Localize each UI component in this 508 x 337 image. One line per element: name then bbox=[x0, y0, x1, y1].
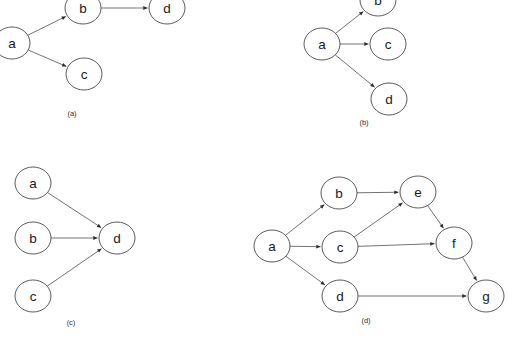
subcaption-panel-a: (a) bbox=[67, 109, 77, 118]
node-label-d: d bbox=[163, 1, 171, 16]
node-a[interactable]: a bbox=[304, 28, 340, 60]
node-a[interactable]: a bbox=[254, 230, 290, 262]
node-c[interactable]: c bbox=[322, 231, 358, 263]
edge-c-to-d bbox=[47, 249, 101, 287]
node-b[interactable]: b bbox=[321, 177, 357, 209]
subcaption-panel-b: (b) bbox=[359, 118, 369, 127]
node-c[interactable]: c bbox=[66, 58, 102, 90]
node-label-b: b bbox=[79, 1, 87, 16]
edge-a-to-c bbox=[28, 50, 66, 66]
node-label-c: c bbox=[81, 67, 88, 82]
edge-c-to-f bbox=[358, 244, 435, 247]
arrowhead-d-to-g bbox=[462, 294, 466, 298]
arrowhead-a-to-d bbox=[97, 224, 102, 228]
subcaption-panel-c: (c) bbox=[67, 318, 76, 327]
node-label-a: a bbox=[29, 176, 37, 191]
edge-a-to-b bbox=[285, 205, 324, 236]
panel-d: abcdefg(d) bbox=[254, 176, 504, 325]
arrowhead-b-to-d bbox=[143, 6, 147, 10]
node-label-c: c bbox=[30, 289, 37, 304]
node-d[interactable]: d bbox=[371, 83, 407, 115]
node-b[interactable]: b bbox=[15, 222, 51, 254]
panel-b-edges bbox=[335, 12, 374, 88]
panel-c-nodes: abcd bbox=[15, 167, 135, 312]
edge-b-to-e bbox=[357, 192, 399, 193]
node-label-g: g bbox=[482, 289, 490, 304]
panel-a: abcd(a) bbox=[0, 0, 185, 118]
arrowhead-a-to-d bbox=[320, 281, 325, 285]
panels-layer: abcd(a)abcd(b)abcd(c)abcdefg(d) bbox=[0, 0, 504, 327]
edge-a-to-d bbox=[286, 256, 325, 285]
node-d[interactable]: d bbox=[149, 0, 185, 24]
edge-a-to-b bbox=[335, 12, 363, 34]
node-d[interactable]: d bbox=[322, 280, 358, 312]
node-f[interactable]: f bbox=[436, 227, 472, 259]
node-c[interactable]: c bbox=[370, 28, 406, 60]
node-label-b: b bbox=[29, 231, 37, 246]
edge-a-to-d bbox=[335, 55, 374, 87]
arrowhead-c-to-f bbox=[430, 242, 434, 246]
node-label-b: b bbox=[374, 0, 382, 8]
node-a[interactable]: a bbox=[15, 167, 51, 199]
arrowhead-a-to-c bbox=[364, 42, 368, 46]
node-label-d: d bbox=[113, 231, 121, 246]
arrowhead-c-to-d bbox=[97, 249, 102, 253]
node-e[interactable]: e bbox=[400, 176, 436, 208]
edge-c-to-e bbox=[354, 203, 403, 237]
panel-c-edges bbox=[47, 192, 101, 286]
node-label-d: d bbox=[336, 289, 344, 304]
arrowhead-e-to-f bbox=[440, 224, 444, 229]
edge-a-to-b bbox=[28, 16, 66, 35]
arrowhead-a-to-c bbox=[316, 245, 320, 249]
node-label-c: c bbox=[337, 240, 344, 255]
node-label-c: c bbox=[385, 37, 392, 52]
node-label-f: f bbox=[452, 236, 456, 251]
arrowhead-c-to-e bbox=[398, 203, 403, 207]
panel-d-nodes: abcdefg bbox=[254, 176, 504, 312]
panel-b: abcd(b) bbox=[304, 0, 407, 127]
node-d[interactable]: d bbox=[99, 222, 135, 254]
panel-c: abcd(c) bbox=[15, 167, 135, 327]
arrowhead-b-to-e bbox=[394, 190, 398, 194]
node-label-b: b bbox=[335, 186, 343, 201]
node-label-a: a bbox=[8, 36, 16, 51]
node-b[interactable]: b bbox=[360, 0, 396, 16]
node-label-a: a bbox=[318, 37, 326, 52]
node-label-a: a bbox=[268, 239, 276, 254]
edge-a-to-d bbox=[47, 192, 101, 227]
graph-diagram-canvas: abcd(a)abcd(b)abcd(c)abcdefg(d) bbox=[0, 0, 508, 337]
node-label-e: e bbox=[414, 185, 422, 200]
node-label-d: d bbox=[385, 92, 393, 107]
node-a[interactable]: a bbox=[0, 27, 30, 59]
node-g[interactable]: g bbox=[468, 280, 504, 312]
panel-a-nodes: abcd bbox=[0, 0, 185, 90]
node-b[interactable]: b bbox=[65, 0, 101, 24]
node-c[interactable]: c bbox=[15, 280, 51, 312]
arrowhead-b-to-d bbox=[93, 236, 97, 240]
figure-root: abcd(a)abcd(b)abcd(c)abcdefg(d) bbox=[0, 0, 508, 337]
subcaption-panel-d: (d) bbox=[361, 316, 371, 325]
